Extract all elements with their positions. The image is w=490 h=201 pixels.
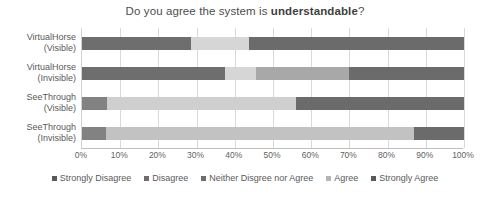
chart-title-suffix: ?: [358, 5, 365, 17]
bar-segment: [82, 67, 225, 80]
x-axis-tick-labels: 0%10%20%30%40%50%60%70%80%90%100%: [0, 150, 490, 164]
x-tick-label: 50%: [263, 150, 280, 160]
legend-label: Disagree: [152, 173, 188, 183]
gridline: [464, 28, 465, 148]
plot-area: [81, 28, 464, 148]
bar-segment: [82, 127, 106, 140]
bar-row: [82, 67, 464, 80]
bar-row: [82, 97, 464, 110]
x-tick-label: 30%: [187, 150, 204, 160]
category-label-line1: SeeThrough: [0, 92, 76, 103]
legend-label: Neither Disgree nor Agree: [209, 173, 313, 183]
category-label-line2: (Visible): [0, 43, 76, 54]
category-label: VirtualHorse(Visible): [0, 32, 76, 53]
legend-swatch-icon: [326, 176, 331, 181]
bar-segment: [106, 127, 414, 140]
bar-segment: [225, 67, 256, 80]
bar-row: [82, 37, 464, 50]
chart-title-bold: understandable: [271, 5, 358, 17]
category-label-line2: (Invisible): [0, 133, 76, 144]
legend-label: Strongly Disagree: [60, 173, 132, 183]
category-label-line1: VirtualHorse: [0, 62, 76, 73]
bar-segment: [249, 37, 464, 50]
category-label-line2: (Invisible): [0, 73, 76, 84]
legend-item[interactable]: Agree: [326, 173, 358, 183]
bar-segment: [82, 37, 191, 50]
chart-title: Do you agree the system is understandabl…: [0, 5, 490, 17]
stacked-bar-chart: Do you agree the system is understandabl…: [0, 0, 490, 201]
category-label-line2: (Visible): [0, 103, 76, 114]
legend-swatch-icon: [144, 176, 149, 181]
x-tick-label: 70%: [340, 150, 357, 160]
x-tick-label: 80%: [378, 150, 395, 160]
chart-legend: Strongly DisagreeDisagreeNeither Disgree…: [0, 173, 490, 183]
bar-segment: [82, 97, 107, 110]
category-label: SeeThrough(Visible): [0, 92, 76, 113]
category-label: SeeThrough(Invisible): [0, 122, 76, 143]
category-label: VirtualHorse(Invisible): [0, 62, 76, 83]
bar-segment: [349, 67, 464, 80]
x-tick-label: 40%: [225, 150, 242, 160]
legend-label: Agree: [334, 173, 358, 183]
chart-title-plain: Do you agree the system is: [126, 5, 271, 17]
legend-swatch-icon: [201, 176, 206, 181]
legend-item[interactable]: Disagree: [144, 173, 188, 183]
legend-swatch-icon: [371, 176, 376, 181]
bar-segment: [191, 37, 249, 50]
legend-item[interactable]: Strongly Disagree: [52, 173, 132, 183]
x-tick-label: 0%: [75, 150, 87, 160]
legend-item[interactable]: Neither Disgree nor Agree: [201, 173, 313, 183]
category-label-line1: SeeThrough: [0, 122, 76, 133]
bar-segment: [107, 97, 296, 110]
bar-segment: [256, 67, 350, 80]
x-axis-baseline: [81, 148, 463, 149]
category-axis-labels: VirtualHorse(Visible)VirtualHorse(Invisi…: [0, 28, 76, 148]
category-label-line1: VirtualHorse: [0, 32, 76, 43]
x-tick-label: 100%: [452, 150, 474, 160]
legend-swatch-icon: [52, 176, 57, 181]
bar-segment: [296, 97, 464, 110]
x-tick-label: 20%: [149, 150, 166, 160]
bar-row: [82, 127, 464, 140]
legend-item[interactable]: Strongly Agree: [371, 173, 438, 183]
legend-label: Strongly Agree: [379, 173, 438, 183]
x-tick-label: 10%: [111, 150, 128, 160]
bar-segment: [414, 127, 464, 140]
x-tick-label: 90%: [416, 150, 433, 160]
x-tick-label: 60%: [302, 150, 319, 160]
